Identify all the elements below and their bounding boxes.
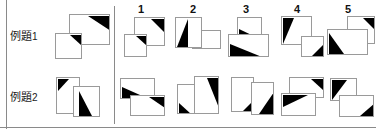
bottom-rule [0, 127, 376, 128]
example-2-option-2-figure[interactable] [177, 76, 221, 118]
column-header-2: 2 [186, 4, 200, 15]
opt2-3-shape-b [251, 82, 274, 115]
opt1-2-shape-a [175, 17, 202, 48]
example-1-prompt-figure [55, 14, 111, 60]
example-1-option-2-figure[interactable] [175, 17, 223, 53]
opt1-4-shape-b [301, 36, 324, 57]
column-header-4-label: 4 [294, 3, 300, 15]
column-header-1: 1 [134, 4, 148, 15]
row-label-example-1-index: 1 [32, 31, 38, 42]
opt2-5-triangle-b-icon [340, 96, 374, 117]
opt1-5-triangle-b-icon [328, 30, 368, 55]
opt1-1-triangle-b-icon [125, 35, 147, 57]
column-header-1-label: 1 [138, 3, 144, 15]
row-label-example-2-index: 2 [32, 92, 38, 103]
row-label-example-2-text: 例題 [10, 91, 32, 103]
opt1-3-shape-b [228, 34, 269, 57]
column-header-3: 3 [239, 4, 253, 15]
example-2-option-1-figure[interactable] [120, 78, 166, 118]
column-header-2-label: 2 [190, 3, 196, 15]
prompt1-small-triangle-icon [56, 34, 82, 59]
opt2-3-triangle-b-icon [252, 83, 274, 115]
opt2-1-triangle-b-icon [131, 96, 165, 116]
example-2-option-4-figure[interactable] [281, 77, 327, 117]
left-margin-rule [6, 0, 7, 129]
column-header-5-label: 5 [345, 3, 351, 15]
prompt2-triangle-b-icon [74, 87, 100, 117]
divider-rule [114, 6, 115, 124]
row-label-example-1: 例題1 [10, 31, 38, 42]
worksheet-canvas: 1 2 3 4 5 例題1 例題2 [0, 0, 376, 129]
example-2-prompt-figure [56, 77, 102, 119]
prompt2-shape-b [73, 86, 100, 117]
opt2-1-shape-b [130, 95, 165, 116]
example-1-option-4-figure[interactable] [281, 16, 327, 60]
row-label-example-2: 例題2 [10, 92, 38, 103]
example-1-option-1-figure[interactable] [124, 17, 168, 59]
column-header-3-label: 3 [243, 3, 249, 15]
opt2-2-triangle-b-icon [195, 77, 219, 114]
opt2-5-shape-b [339, 95, 374, 117]
example-1-option-5-figure[interactable] [327, 16, 375, 58]
opt1-4-triangle-b-icon [302, 37, 324, 57]
column-header-5: 5 [341, 4, 355, 15]
column-header-4: 4 [290, 4, 304, 15]
opt1-3-triangle-b-icon [229, 35, 269, 57]
example-2-option-5-figure[interactable] [330, 78, 376, 118]
row-label-example-1-text: 例題 [10, 30, 32, 42]
prompt1-shape-small [55, 33, 82, 59]
opt2-4-triangle-b-icon [282, 94, 316, 116]
opt2-4-shape-b [281, 93, 316, 116]
example-1-option-3-figure[interactable] [228, 17, 272, 59]
opt2-2-shape-b [194, 76, 219, 114]
opt1-5-shape-b [327, 29, 368, 55]
example-2-option-3-figure[interactable] [231, 77, 277, 119]
opt1-2-triangle-a-icon [176, 18, 202, 48]
opt1-1-shape-b [124, 34, 147, 57]
